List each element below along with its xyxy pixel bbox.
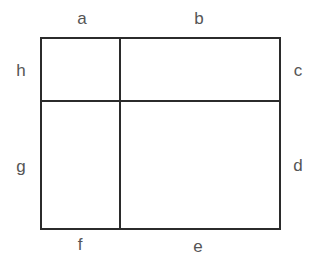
label-b: b	[194, 10, 203, 27]
label-h: h	[16, 62, 25, 79]
outer-right-edge	[279, 37, 281, 230]
label-a: a	[77, 10, 86, 27]
outer-left-edge	[40, 37, 42, 230]
partitioned-rectangle-diagram: a b c d e f g h	[0, 0, 317, 262]
outer-top-edge	[41, 37, 281, 39]
label-d: d	[293, 157, 302, 174]
outer-bottom-edge	[41, 228, 281, 230]
label-e: e	[193, 238, 202, 255]
horizontal-divider	[41, 100, 281, 102]
label-c: c	[294, 62, 303, 79]
label-g: g	[16, 158, 25, 175]
label-f: f	[78, 236, 83, 253]
vertical-divider	[119, 37, 121, 230]
